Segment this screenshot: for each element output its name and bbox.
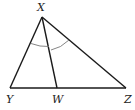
vertex-label-X: X xyxy=(36,1,46,14)
vertex-label-Z: Z xyxy=(123,93,132,106)
vertex-label-W: W xyxy=(52,93,65,106)
segment-XY xyxy=(10,17,42,88)
angle-arc-YXW xyxy=(31,44,49,47)
triangle-diagram: X Y W Z xyxy=(0,0,135,110)
vertex-label-Y: Y xyxy=(6,93,15,106)
angle-arc-WXZ xyxy=(51,40,69,50)
